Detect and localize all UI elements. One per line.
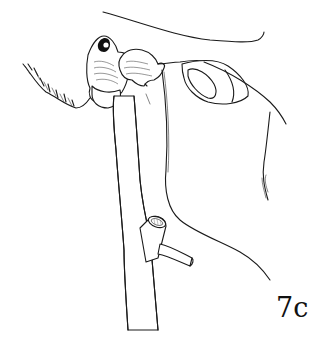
skull-contour-line — [103, 12, 264, 42]
main-vessel — [113, 96, 158, 330]
left-fringed-structure — [23, 64, 90, 108]
anatomical-illustration — [0, 0, 321, 348]
vessel-side-branch — [158, 244, 193, 266]
figure-label: 7c — [276, 292, 308, 323]
